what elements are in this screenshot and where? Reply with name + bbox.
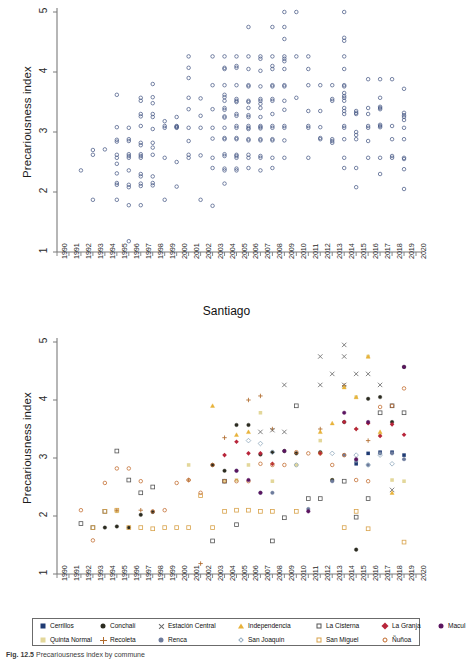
data-point — [283, 463, 287, 467]
data-point — [318, 83, 322, 87]
x-tick-label: 1991 — [72, 565, 81, 581]
x-tick-label: 2003 — [216, 565, 225, 581]
data-point — [342, 479, 346, 483]
data-point — [187, 139, 191, 143]
data-point — [235, 523, 239, 527]
data-point — [139, 124, 143, 128]
data-point — [282, 383, 286, 387]
legend-marker-icon — [381, 622, 389, 630]
data-point — [187, 76, 191, 80]
legend-item-la-granja: La Granja — [381, 622, 437, 630]
legend-label: La Cisterna — [326, 623, 359, 630]
data-point — [282, 516, 286, 520]
data-point — [342, 420, 347, 425]
data-point — [366, 77, 370, 81]
data-point — [223, 509, 227, 513]
legend-label: Recoleta — [110, 637, 136, 644]
data-point — [342, 67, 346, 71]
data-point — [139, 479, 143, 483]
y-tick-label: 4 — [38, 391, 49, 407]
data-point — [259, 411, 263, 415]
data-point — [318, 497, 322, 501]
data-point — [366, 452, 370, 456]
data-point — [163, 156, 167, 160]
data-point — [402, 365, 406, 369]
y-tick-label: 2 — [38, 507, 49, 523]
x-tick-label: 1996 — [132, 565, 141, 581]
data-point — [258, 394, 262, 398]
data-point — [258, 441, 263, 446]
data-point — [259, 115, 263, 119]
legend-item-renca: Renca — [157, 636, 237, 644]
x-tick-label: 2003 — [216, 243, 225, 259]
data-point — [115, 162, 119, 166]
data-point — [366, 420, 370, 424]
data-point — [330, 451, 335, 456]
data-point — [91, 526, 95, 530]
data-point — [271, 166, 275, 170]
data-point — [222, 453, 227, 458]
data-point — [354, 427, 359, 432]
x-tick-label: 2006 — [251, 565, 260, 581]
axes — [53, 338, 422, 578]
data-point — [271, 509, 275, 513]
data-point — [246, 451, 251, 456]
data-point — [342, 354, 346, 358]
data-point — [127, 478, 131, 482]
scatter-plot-santiago — [0, 0, 453, 330]
x-tick-label: 2018 — [395, 565, 404, 581]
data-point — [103, 526, 107, 530]
data-point — [163, 526, 167, 530]
legend-marker-icon — [315, 636, 323, 644]
data-point — [354, 166, 358, 170]
data-point — [402, 479, 406, 483]
data-point — [223, 93, 227, 97]
data-point — [151, 95, 155, 99]
x-tick-label: 2008 — [275, 565, 284, 581]
data-point — [115, 467, 119, 471]
data-point — [246, 438, 251, 443]
x-tick-label: 1993 — [96, 243, 105, 259]
x-tick-label: 1997 — [144, 565, 153, 581]
data-point — [366, 497, 370, 501]
data-point — [223, 99, 227, 103]
data-point — [187, 463, 191, 467]
data-point — [366, 106, 370, 110]
data-point — [91, 153, 95, 157]
data-point — [79, 508, 83, 512]
data-point — [91, 539, 95, 543]
data-point — [307, 510, 311, 514]
x-tick-label: 2000 — [180, 565, 189, 581]
data-point — [151, 82, 155, 86]
x-tick-label: 2002 — [204, 565, 213, 581]
data-point — [247, 463, 251, 467]
data-point — [402, 187, 406, 191]
caption-label: Fig. 12.5 — [6, 651, 34, 658]
data-point — [295, 96, 299, 100]
data-point — [139, 513, 143, 517]
x-tick-label: 2008 — [275, 243, 284, 259]
data-point — [91, 148, 95, 152]
data-point — [354, 137, 358, 141]
data-point — [378, 96, 382, 100]
x-tick-label: 1992 — [84, 243, 93, 259]
data-point — [127, 467, 131, 471]
y-tick-label: 4 — [38, 63, 49, 79]
data-point — [115, 125, 119, 129]
legend-item-recoleta: Recoleta — [99, 636, 157, 644]
y-tick-label: 2 — [38, 183, 49, 199]
data-point — [295, 55, 299, 59]
data-point — [235, 55, 239, 59]
data-point — [187, 96, 191, 100]
legend-label: Quinta Normal — [50, 637, 92, 644]
x-tick-label: 1994 — [108, 565, 117, 581]
legend-item-la-cisterna: La Cisterna — [315, 622, 381, 630]
x-tick-label: 1999 — [168, 243, 177, 259]
data-point — [366, 527, 370, 531]
data-point — [234, 433, 238, 437]
series-la-granja — [222, 420, 406, 466]
legend-marker-icon — [237, 636, 245, 644]
data-point — [402, 540, 406, 544]
data-point — [223, 469, 227, 473]
